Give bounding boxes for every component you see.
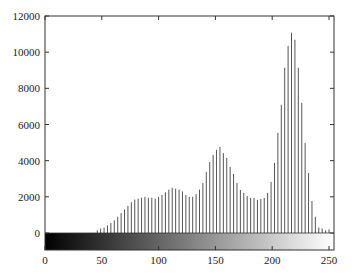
y-tick-label: 8000 xyxy=(18,82,41,94)
grayscale-gradient-bar xyxy=(45,233,333,250)
y-tick-label: 6000 xyxy=(18,119,41,131)
x-tick-label: 200 xyxy=(264,254,281,266)
histogram-chart: 020004000600080001000012000 050100150200… xyxy=(0,0,354,278)
y-tick-label: 10000 xyxy=(13,46,41,58)
x-tick-label: 100 xyxy=(150,254,167,266)
y-axis: 020004000600080001000012000 xyxy=(13,10,335,239)
x-tick-label: 50 xyxy=(96,254,108,266)
y-tick-label: 2000 xyxy=(18,191,41,203)
histogram-bars xyxy=(97,33,329,233)
y-tick-label: 12000 xyxy=(13,10,41,22)
x-axis: 050100150200250 xyxy=(42,16,338,266)
x-tick-label: 150 xyxy=(207,254,224,266)
y-tick-label: 4000 xyxy=(18,155,41,167)
y-tick-label: 0 xyxy=(35,227,41,239)
x-tick-label: 0 xyxy=(42,254,48,266)
x-tick-label: 250 xyxy=(321,254,338,266)
